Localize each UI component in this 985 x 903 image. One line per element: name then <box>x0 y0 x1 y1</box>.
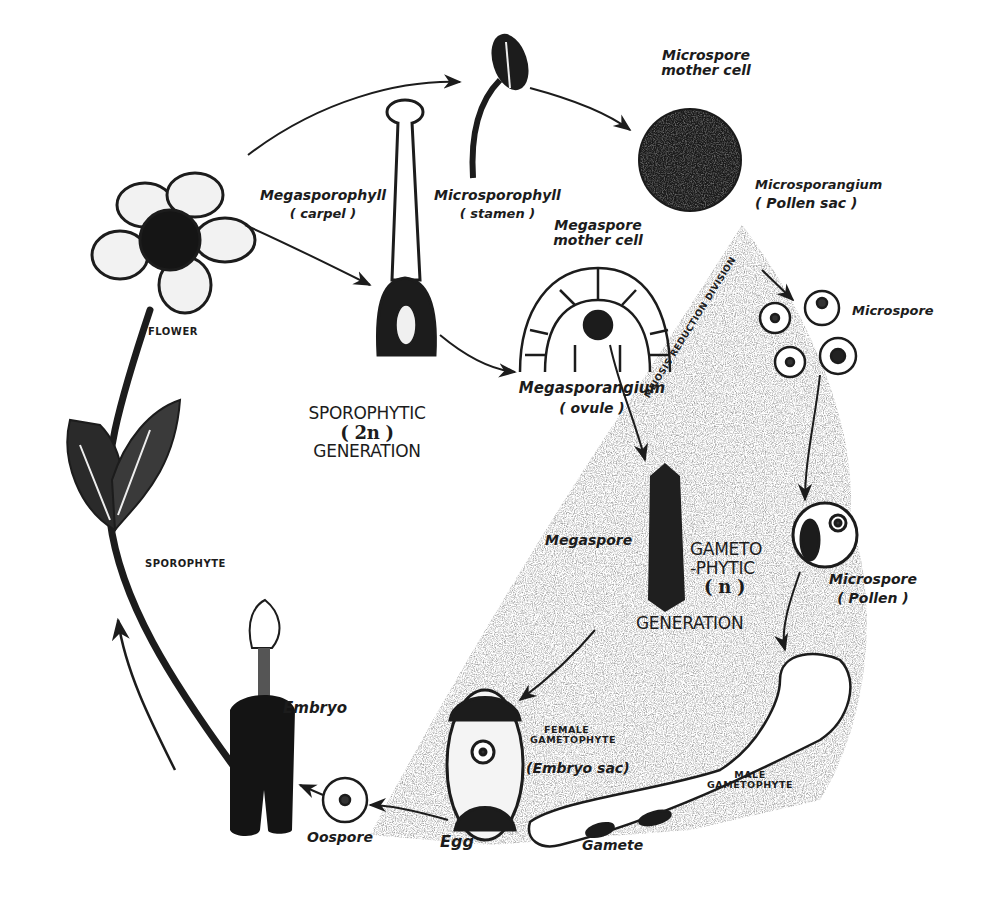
carpel <box>377 100 435 355</box>
gametophytic-line4: GENERATION <box>636 614 743 633</box>
label-microsporophyll: Microsporophyll ( stamen ) <box>420 188 575 222</box>
embryo <box>230 600 295 836</box>
label-oospore: Oospore <box>307 830 373 845</box>
microspore-mother-cell-line2: mother cell <box>656 63 756 78</box>
megasporophyll-name: Megasporophyll <box>248 188 398 203</box>
megasporangium <box>520 268 670 372</box>
label-microsporangium: Microsporangium ( Pollen sac ) <box>755 178 882 212</box>
sporophytic-line3: GENERATION <box>282 442 452 461</box>
label-flower: FLOWER <box>148 326 198 337</box>
label-microspore-pollen: Microspore ( Pollen ) <box>818 572 928 607</box>
label-embryo-sac: (Embryo sac) <box>526 761 630 776</box>
microsporophyll-name: Microsporophyll <box>420 188 575 203</box>
microsporangium-name: Microsporangium <box>755 178 882 192</box>
label-megasporangium: Megasporangium ( ovule ) <box>512 380 672 416</box>
megasporangium-name: Megasporangium <box>512 380 672 397</box>
megaspore <box>648 463 685 612</box>
sporophytic-line2: ( 2n ) <box>282 423 452 443</box>
label-microspore-mother-cell: Microspore mother cell <box>656 48 756 79</box>
microsporangium <box>638 108 742 212</box>
female-line2: GAMETOPHYTE <box>530 735 616 745</box>
flower <box>92 173 255 313</box>
stamen <box>472 30 533 178</box>
pollen-grain <box>793 503 857 567</box>
microspore-mother-cell-line1: Microspore <box>656 48 756 63</box>
megaspore-mother-cell-line2: mother cell <box>538 233 658 248</box>
label-megaspore: Megaspore <box>545 533 632 548</box>
embryo-sac <box>447 690 523 840</box>
carpel-name: ( carpel ) <box>248 207 398 221</box>
sporophytic-line1: SPOROPHYTIC <box>282 404 452 423</box>
label-sporophyte: SPOROPHYTE <box>145 558 226 569</box>
label-megasporophyll: Megasporophyll ( carpel ) <box>248 188 398 222</box>
life-cycle-artwork <box>0 0 985 903</box>
label-microspore: Microspore <box>852 304 934 318</box>
label-male-gametophyte: MALE GAMETOPHYTE <box>700 770 800 791</box>
label-egg: Egg <box>440 833 474 851</box>
label-embryo: Embryo <box>283 700 347 717</box>
gametophytic-line1: GAMETO <box>690 540 762 559</box>
sporophyte-plant <box>67 310 240 775</box>
gametophytic-line3: ( n ) <box>690 577 762 597</box>
ovule-name: ( ovule ) <box>512 401 672 416</box>
megaspore-mother-cell-line1: Megaspore <box>538 218 658 233</box>
gametophytic-generation-label: GAMETO -PHYTIC ( n ) <box>690 540 762 597</box>
male-line2: GAMETOPHYTE <box>700 780 800 790</box>
microspore-pollen-line2: ( Pollen ) <box>818 591 928 606</box>
microspore-pollen-line1: Microspore <box>818 572 928 587</box>
sporophytic-generation-label: SPOROPHYTIC ( 2n ) GENERATION <box>282 404 452 461</box>
label-female-gametophyte: FEMALE GAMETOPHYTE <box>530 725 616 746</box>
label-gamete: Gamete <box>582 838 643 853</box>
label-megaspore-mother-cell: Megaspore mother cell <box>538 218 658 249</box>
pollen-sac-name: ( Pollen sac ) <box>755 196 882 211</box>
gametophytic-line2: -PHYTIC <box>690 559 762 578</box>
oospore <box>323 778 367 822</box>
